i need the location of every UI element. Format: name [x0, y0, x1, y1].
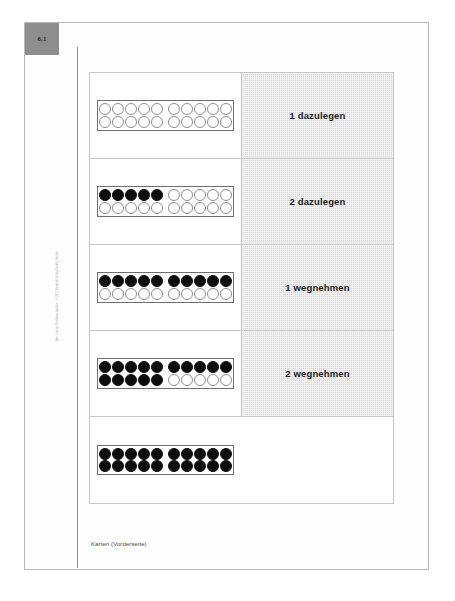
empty-label-cell [241, 417, 393, 503]
empty-dot [207, 374, 219, 386]
empty-dot [220, 116, 232, 128]
filled-dot [181, 460, 193, 472]
empty-dot [168, 374, 180, 386]
filled-dot [151, 189, 163, 201]
operation-label: 1 wegnehmen [285, 282, 349, 293]
twenty-frame [97, 100, 235, 131]
filled-dot [99, 189, 111, 201]
empty-dot [220, 288, 232, 300]
filled-dot [207, 448, 219, 460]
margin-vertical-rule [77, 47, 78, 568]
filled-dot [138, 361, 150, 373]
filled-dot [207, 460, 219, 472]
empty-dot [125, 116, 137, 128]
dot-group [168, 361, 232, 374]
dot-group [168, 447, 232, 460]
filled-dot [125, 189, 137, 201]
empty-dot [138, 116, 150, 128]
filled-dot [151, 448, 163, 460]
empty-dot [207, 288, 219, 300]
dot-group [99, 288, 163, 301]
twenty-frame-cell [90, 445, 241, 476]
filled-dot [112, 361, 124, 373]
table-row: 1 dazulegen [90, 73, 393, 159]
frame-line-bottom [99, 374, 232, 387]
empty-dot [181, 103, 193, 115]
dot-group [99, 189, 163, 202]
twenty-frame [97, 186, 235, 217]
empty-dot [151, 288, 163, 300]
operation-label-cell: 1 wegnehmen [241, 245, 393, 330]
dot-group [99, 460, 163, 473]
filled-dot [138, 275, 150, 287]
empty-dot [220, 374, 232, 386]
twenty-frame [97, 272, 235, 303]
filled-dot [125, 361, 137, 373]
dot-group [99, 374, 163, 387]
filled-dot [99, 448, 111, 460]
empty-dot [194, 116, 206, 128]
filled-dot [112, 275, 124, 287]
empty-dot [194, 202, 206, 214]
dot-group [168, 460, 232, 473]
empty-dot [194, 189, 206, 201]
twenty-frame-cell [90, 272, 241, 303]
frame-line-bottom [99, 288, 232, 301]
scanned-worksheet-page: 6.1 Aus: Lorenz, Rechenschwäche · © 2012… [24, 22, 429, 570]
table-row: 2 dazulegen [90, 159, 393, 245]
cards-table: 1 dazulegen2 dazulegen1 wegnehmen2 wegne… [89, 72, 394, 504]
empty-dot [168, 288, 180, 300]
page-number-badge: 6.1 [25, 23, 59, 55]
dot-group [99, 447, 163, 460]
filled-dot [220, 448, 232, 460]
empty-dot [99, 288, 111, 300]
filled-dot [138, 374, 150, 386]
empty-dot [181, 116, 193, 128]
twenty-frame [97, 358, 235, 389]
frame-line-top [99, 103, 232, 116]
filled-dot [151, 460, 163, 472]
filled-dot [181, 275, 193, 287]
operation-label-cell: 1 dazulegen [241, 73, 393, 158]
filled-dot [168, 460, 180, 472]
empty-dot [138, 103, 150, 115]
dot-group [99, 116, 163, 129]
twenty-frame [97, 445, 235, 476]
filled-dot [125, 374, 137, 386]
filled-dot [207, 361, 219, 373]
empty-dot [181, 189, 193, 201]
filled-dot [138, 189, 150, 201]
filled-dot [220, 361, 232, 373]
filled-dot [138, 448, 150, 460]
dot-group [168, 189, 232, 202]
dot-group [168, 103, 232, 116]
dot-group [168, 275, 232, 288]
filled-dot [99, 374, 111, 386]
empty-dot [125, 103, 137, 115]
frame-line-top [99, 447, 232, 460]
operation-label: 2 dazulegen [289, 196, 345, 207]
filled-dot [99, 275, 111, 287]
empty-dot [181, 374, 193, 386]
empty-dot [220, 103, 232, 115]
dot-group [99, 103, 163, 116]
empty-dot [151, 103, 163, 115]
empty-dot [112, 103, 124, 115]
empty-dot [168, 103, 180, 115]
filled-dot [194, 361, 206, 373]
twenty-frame-cell [90, 358, 241, 389]
filled-dot [151, 374, 163, 386]
empty-dot [112, 116, 124, 128]
filled-dot [138, 460, 150, 472]
table-row: 1 wegnehmen [90, 245, 393, 331]
filled-dot [99, 460, 111, 472]
filled-dot [151, 361, 163, 373]
empty-dot [194, 374, 206, 386]
filled-dot [220, 275, 232, 287]
filled-dot [168, 275, 180, 287]
frame-line-bottom [99, 460, 232, 473]
dot-group [168, 374, 232, 387]
empty-dot [125, 202, 137, 214]
empty-dot [99, 202, 111, 214]
filled-dot [207, 275, 219, 287]
